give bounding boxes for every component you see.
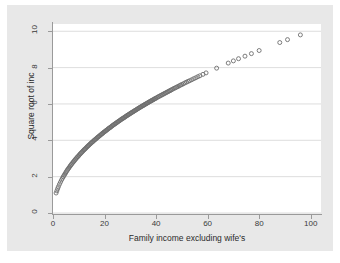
x-tick-label: 80 [247,219,271,228]
x-axis-line [52,214,322,215]
data-point [226,61,230,65]
data-point [257,49,261,53]
data-point [243,54,247,58]
data-point [237,57,241,61]
x-tick-label: 100 [299,219,323,228]
y-tick-label: 10 [27,25,41,34]
plot-canvas [53,24,321,213]
x-tick-label: 20 [93,219,117,228]
x-tick-label: 0 [41,219,65,228]
y-axis-line [52,22,53,215]
y-tick-mark [48,31,52,32]
data-point [278,41,282,45]
data-point [298,33,302,37]
y-tick-mark [48,177,52,178]
x-tick-label: 40 [144,219,168,228]
y-tick-label-text: 0 [29,209,38,213]
data-point [215,66,219,70]
data-point-markers [54,33,302,195]
scatter-plot-figure: 0246810 020406080100 Square root of inc … [0,0,340,263]
y-tick-label-text: 10 [30,25,39,34]
data-point [231,59,235,63]
y-tick-mark [48,213,52,214]
y-tick-label: 0 [27,207,41,216]
x-tick-label: 60 [196,219,220,228]
y-axis-title: Square root of inc [26,36,36,176]
data-point [249,52,253,56]
data-point [286,38,290,42]
gridlines [53,31,321,213]
graph-region: 0246810 020406080100 Square root of inc … [7,5,333,251]
y-tick-mark [48,68,52,69]
x-axis-title: Family income excluding wife's [53,233,321,243]
y-tick-mark [48,104,52,105]
plot-area [53,24,321,213]
y-tick-mark [48,140,52,141]
